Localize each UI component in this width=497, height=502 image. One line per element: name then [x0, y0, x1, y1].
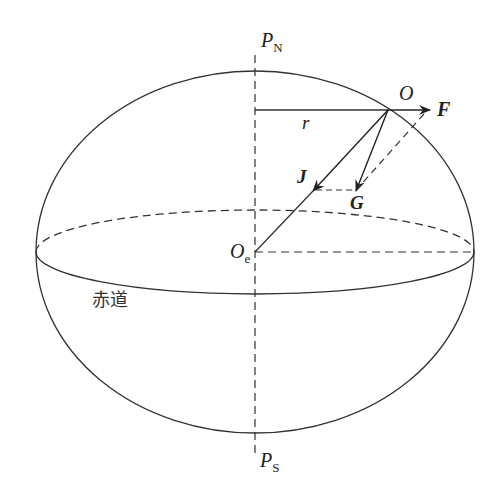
force-j-label: J — [296, 166, 307, 187]
point-o-label: O — [399, 82, 413, 104]
earth-center-label: Oe — [230, 240, 250, 266]
north-pole-label: PN — [260, 29, 283, 55]
force-g-label: G — [350, 192, 364, 213]
force-j-vector — [313, 110, 388, 191]
earth-force-diagram: PN PS Oe O r F J G 赤道 — [0, 0, 497, 502]
radius-r-label: r — [302, 112, 310, 133]
equator-front — [36, 252, 474, 294]
force-f-label: F — [436, 98, 451, 120]
parallelogram-f-g — [358, 114, 424, 188]
force-g-vector — [356, 110, 388, 191]
south-pole-label: PS — [259, 449, 279, 475]
equator-label: 赤道 — [92, 289, 128, 310]
oe-to-o-line — [255, 191, 313, 252]
